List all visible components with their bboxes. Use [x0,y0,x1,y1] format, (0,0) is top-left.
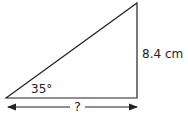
opposite-side-label: 8.4 cm [142,48,183,60]
angle-label: 35° [31,83,52,95]
unknown-base-label: ? [72,100,83,113]
right-triangle [6,3,137,98]
